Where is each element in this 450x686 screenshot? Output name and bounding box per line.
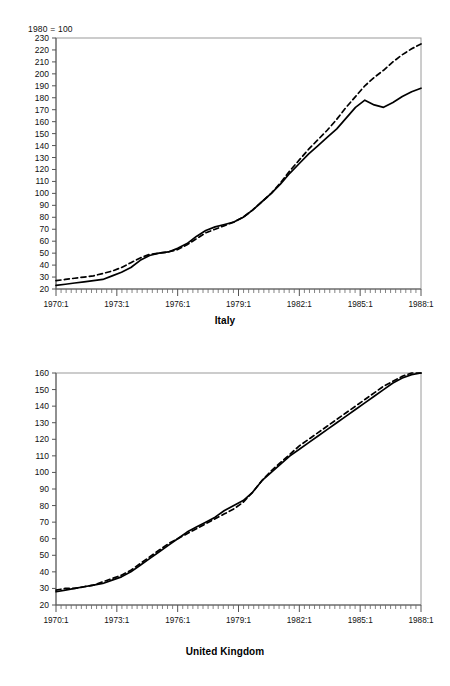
- y-tick-label: 140: [35, 401, 49, 411]
- series-line-solid: [56, 88, 421, 285]
- panel-title-italy: Italy: [0, 315, 450, 326]
- y-tick-label: 150: [35, 385, 49, 395]
- y-tick-label: 230: [35, 33, 49, 43]
- x-tick-label: 1979:1: [226, 616, 251, 625]
- y-tick-label: 70: [40, 517, 50, 527]
- y-tick-label: 60: [40, 236, 50, 246]
- x-tick-label: 1985:1: [348, 616, 373, 625]
- y-tick-label: 40: [40, 567, 50, 577]
- x-tick-label: 1982:1: [287, 300, 312, 309]
- x-tick-label: 1976:1: [165, 616, 190, 625]
- y-tick-label: 140: [35, 141, 49, 151]
- series-line-dashed: [56, 373, 421, 590]
- y-tick-label: 100: [35, 188, 49, 198]
- x-tick-label: 1970:1: [43, 300, 68, 309]
- y-tick-label: 20: [40, 600, 50, 610]
- y-tick-label: 190: [35, 81, 49, 91]
- y-tick-label: 120: [35, 164, 49, 174]
- x-tick-label: 1970:1: [43, 616, 68, 625]
- x-tick-label: 1973:1: [104, 616, 129, 625]
- y-tick-label: 160: [35, 117, 49, 127]
- y-tick-label: 80: [40, 501, 50, 511]
- x-tick-label: 1976:1: [165, 300, 190, 309]
- y-tick-label: 20: [40, 284, 50, 294]
- y-tick-label: 50: [40, 248, 50, 258]
- x-tick-label: 1988:1: [408, 300, 433, 309]
- panel-title-uk: United Kingdom: [0, 646, 450, 657]
- plot-area-italy: 2030405060708090100110120130140150160170…: [0, 0, 450, 335]
- y-tick-label: 200: [35, 69, 49, 79]
- x-tick-label: 1973:1: [104, 300, 129, 309]
- x-tick-label: 1988:1: [408, 616, 433, 625]
- chart-panel-uk: 2030405060708090100110120130140150160197…: [0, 340, 450, 686]
- y-tick-label: 120: [35, 434, 49, 444]
- y-tick-label: 40: [40, 260, 50, 270]
- y-tick-label: 70: [40, 224, 50, 234]
- plot-area-uk: 2030405060708090100110120130140150160197…: [0, 340, 450, 640]
- y-tick-label: 220: [35, 45, 49, 55]
- chart-page: 1980 = 100 20304050607080901001101201301…: [0, 0, 450, 686]
- y-tick-label: 130: [35, 418, 49, 428]
- y-tick-label: 100: [35, 467, 49, 477]
- y-tick-label: 160: [35, 368, 49, 378]
- y-tick-label: 170: [35, 105, 49, 115]
- y-tick-label: 50: [40, 550, 50, 560]
- series-line-dashed: [56, 44, 421, 281]
- x-tick-label: 1985:1: [348, 300, 373, 309]
- y-tick-label: 180: [35, 93, 49, 103]
- y-tick-label: 110: [35, 176, 49, 186]
- chart-panel-italy: 1980 = 100 20304050607080901001101201301…: [0, 0, 450, 340]
- y-tick-label: 30: [40, 272, 50, 282]
- y-tick-label: 90: [40, 484, 50, 494]
- y-tick-label: 60: [40, 534, 50, 544]
- y-tick-label: 130: [35, 153, 49, 163]
- x-tick-label: 1979:1: [226, 300, 251, 309]
- y-tick-label: 80: [40, 212, 50, 222]
- series-line-solid: [56, 373, 421, 592]
- y-tick-label: 150: [35, 129, 49, 139]
- y-tick-label: 90: [40, 200, 50, 210]
- y-tick-label: 110: [35, 451, 49, 461]
- x-tick-label: 1982:1: [287, 616, 312, 625]
- y-tick-label: 30: [40, 583, 50, 593]
- y-tick-label: 210: [35, 57, 49, 67]
